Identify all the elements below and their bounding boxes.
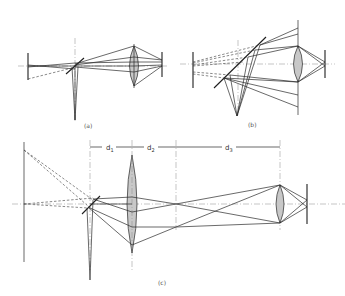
- optical-diagram: (a) (b): [0, 0, 345, 296]
- tilted-mirror: [214, 37, 266, 88]
- panel-c: d1 d2 d3: [12, 140, 345, 286]
- relay-lens: [276, 185, 284, 223]
- panel-a: (a): [18, 38, 168, 129]
- panel-b: (b): [180, 20, 335, 128]
- panel-label-c: (c): [158, 279, 166, 286]
- dimension-line: d1 d2 d3: [90, 142, 280, 153]
- lens: [294, 46, 303, 82]
- panel-label-b: (b): [248, 121, 257, 128]
- panel-label-a: (a): [84, 122, 92, 129]
